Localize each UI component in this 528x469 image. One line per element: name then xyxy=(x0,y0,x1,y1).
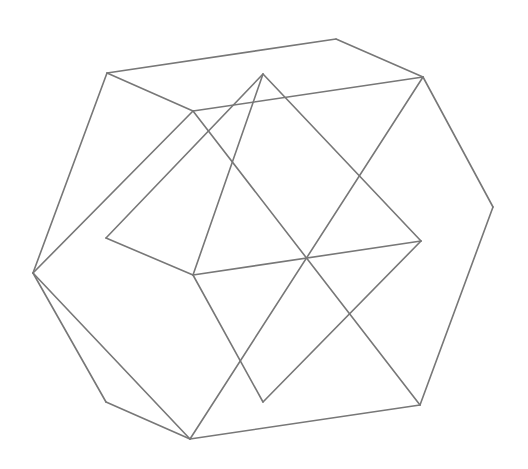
edge-M-N xyxy=(193,275,263,402)
edge-J-L xyxy=(263,74,421,241)
edge-group xyxy=(33,39,493,439)
edge-C-D xyxy=(423,77,493,207)
edge-A-I xyxy=(107,73,193,111)
edge-E-F xyxy=(190,405,420,439)
edge-B-C xyxy=(336,39,423,77)
polyhedron-wireframe xyxy=(0,0,528,469)
edge-K-M xyxy=(106,238,193,275)
edge-J-K xyxy=(106,74,263,238)
edge-H-F xyxy=(33,273,190,439)
edge-A-B xyxy=(107,39,336,73)
edge-I-H xyxy=(33,111,193,273)
edge-C-F xyxy=(190,77,423,439)
edge-F-G xyxy=(106,402,190,439)
edge-I-C xyxy=(193,77,423,111)
edge-N-L xyxy=(263,241,421,402)
edge-J-M xyxy=(193,74,263,275)
edge-H-A xyxy=(33,73,107,273)
edge-D-E xyxy=(420,207,493,405)
